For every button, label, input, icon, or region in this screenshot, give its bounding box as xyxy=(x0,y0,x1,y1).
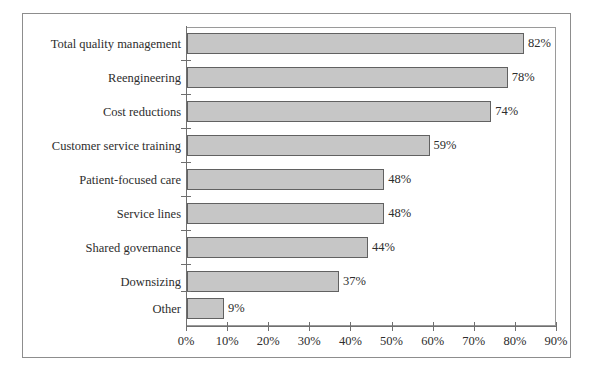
category-tick xyxy=(181,162,191,163)
bar-row: Total quality management 82% xyxy=(0,27,593,61)
category-tick xyxy=(181,230,191,231)
value-tick xyxy=(309,322,310,331)
value-tick xyxy=(515,322,516,331)
bar xyxy=(187,271,339,292)
bar-row: Customer service training 59% xyxy=(0,129,593,163)
horizontal-bar-chart: Total quality management 82% Reengineeri… xyxy=(0,0,593,382)
category-tick xyxy=(181,60,191,61)
bar xyxy=(187,169,384,190)
value-tick xyxy=(556,322,557,331)
bar-value-label: 74% xyxy=(495,101,518,122)
bar-value-label: 44% xyxy=(372,237,395,258)
value-tick xyxy=(392,322,393,331)
bar-row: Shared governance 44% xyxy=(0,231,593,265)
bar xyxy=(187,298,224,319)
category-label: Other xyxy=(0,292,181,326)
category-label: Total quality management xyxy=(0,27,181,61)
bar xyxy=(187,33,524,54)
bar-value-label: 37% xyxy=(343,271,366,292)
category-label: Patient-focused care xyxy=(0,163,181,197)
bar xyxy=(187,237,368,258)
bar-value-label: 48% xyxy=(388,169,411,190)
value-tick xyxy=(474,322,475,331)
category-label: Shared governance xyxy=(0,231,181,265)
bar-row: Cost reductions 74% xyxy=(0,95,593,129)
category-label: Reengineering xyxy=(0,61,181,95)
category-label: Customer service training xyxy=(0,129,181,163)
category-axis-line xyxy=(186,326,556,327)
category-label: Service lines xyxy=(0,197,181,231)
bar-value-label: 78% xyxy=(512,67,535,88)
bar xyxy=(187,135,430,156)
category-tick xyxy=(181,196,191,197)
value-tick xyxy=(268,322,269,331)
value-tick-label: 90% xyxy=(526,334,586,349)
bar-value-label: 59% xyxy=(434,135,457,156)
value-tick xyxy=(350,322,351,331)
bar xyxy=(187,67,508,88)
bar-row: Reengineering 78% xyxy=(0,61,593,95)
value-tick xyxy=(186,322,187,331)
category-label: Cost reductions xyxy=(0,95,181,129)
bar-row: Service lines 48% xyxy=(0,197,593,231)
bar-row: Other 9% xyxy=(0,292,593,326)
bar-value-label: 9% xyxy=(228,298,245,319)
bar-value-label: 82% xyxy=(528,33,551,54)
value-tick xyxy=(433,322,434,331)
category-tick xyxy=(181,291,191,292)
bar-value-label: 48% xyxy=(388,203,411,224)
bar-row: Patient-focused care 48% xyxy=(0,163,593,197)
bar xyxy=(187,203,384,224)
category-tick xyxy=(181,264,191,265)
category-tick xyxy=(181,94,191,95)
value-tick xyxy=(227,322,228,331)
category-tick xyxy=(181,128,191,129)
bar xyxy=(187,101,491,122)
